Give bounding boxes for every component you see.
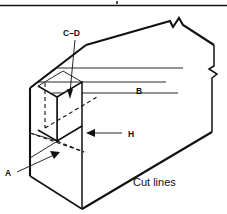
figure-canvas: C–D B H A Cut lines: [0, 0, 227, 214]
label-a: A: [5, 168, 11, 178]
leader-a: [17, 151, 60, 172]
label-h: H: [128, 129, 134, 139]
edge-left-bottom-diagonal: [30, 176, 82, 209]
label-cut-lines: Cut lines: [133, 176, 176, 188]
block-solid: [30, 18, 217, 209]
label-b: B: [136, 86, 142, 96]
leader-a-line: [17, 155, 54, 172]
notch-left-face-fill: [38, 86, 57, 141]
technical-drawing: C–D B H A Cut lines: [0, 0, 227, 214]
hidden-line-pocket-right: [57, 141, 84, 152]
edge-top-back-with-break: [86, 18, 214, 45]
label-cd: C–D: [63, 28, 80, 38]
leader-a-arrowhead: [50, 151, 60, 159]
